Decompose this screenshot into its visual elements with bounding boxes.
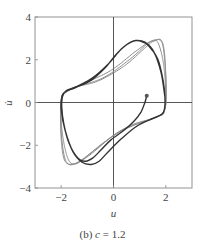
x-tick-label: −2 [55,191,67,203]
y-tick-label: −2 [19,139,31,151]
x-tick-label: 2 [163,191,169,203]
caption-value: = 1.2 [100,228,125,240]
y-tick-label: 0 [26,97,32,109]
y-tick-label: 2 [26,54,32,66]
y-tick-label: −4 [19,182,31,194]
start-point-marker [145,94,149,98]
y-tick-label: 4 [26,11,32,23]
caption-prefix: (b) [80,228,96,240]
axis-ticks: −202−4−2024 [19,11,168,203]
x-axis-label: u [111,207,117,219]
x-tick-label: 0 [111,191,117,203]
y-axis-label: u̇ [2,100,14,106]
figure-caption: (b) c = 1.2 [0,228,205,240]
zero-lines [35,17,192,188]
start-point-dot [145,94,149,98]
phase-portrait-chart: −202−4−2024 u u̇ [0,0,205,246]
